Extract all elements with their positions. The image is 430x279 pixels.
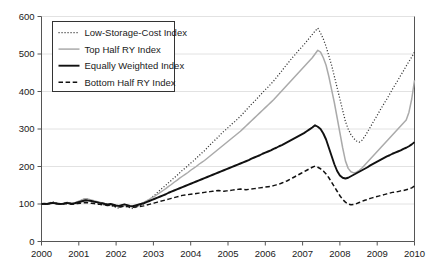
x-tick-label-2004: 2004 xyxy=(180,248,201,259)
line-chart: 0100200300400500600200020012002200320042… xyxy=(0,0,430,279)
x-tick-label-2001: 2001 xyxy=(68,248,89,259)
x-tick-label-2000: 2000 xyxy=(31,248,52,259)
x-tick-label-2003: 2003 xyxy=(143,248,164,259)
x-tick-label-2007: 2007 xyxy=(292,248,313,259)
y-tick-label-300: 300 xyxy=(19,123,35,134)
legend: Low-Storage-Cost IndexTop Half RY IndexE… xyxy=(53,22,188,92)
x-tick-label-2009: 2009 xyxy=(367,248,388,259)
y-tick-label-600: 600 xyxy=(19,11,35,22)
legend-label-2[interactable]: Equally Weighted Index xyxy=(85,60,185,71)
legend-label-0[interactable]: Low-Storage-Cost Index xyxy=(85,27,188,38)
x-axis-ticks: 2000200120022003200420052006200720082009… xyxy=(31,242,425,259)
chart-container: 0100200300400500600200020012002200320042… xyxy=(0,0,430,279)
x-tick-label-2005: 2005 xyxy=(217,248,238,259)
x-tick-label-2010: 2010 xyxy=(404,248,425,259)
y-tick-label-0: 0 xyxy=(29,236,34,247)
series-line-2 xyxy=(42,125,415,206)
legend-label-1[interactable]: Top Half RY Index xyxy=(85,44,161,55)
x-tick-label-2008: 2008 xyxy=(329,248,350,259)
y-tick-label-200: 200 xyxy=(19,161,35,172)
y-tick-label-100: 100 xyxy=(19,198,35,209)
legend-label-3[interactable]: Bottom Half RY Index xyxy=(85,77,176,88)
y-tick-label-500: 500 xyxy=(19,48,35,59)
x-tick-label-2006: 2006 xyxy=(255,248,276,259)
y-axis-ticks: 0100200300400500600 xyxy=(19,11,42,247)
y-tick-label-400: 400 xyxy=(19,86,35,97)
x-tick-label-2002: 2002 xyxy=(106,248,127,259)
